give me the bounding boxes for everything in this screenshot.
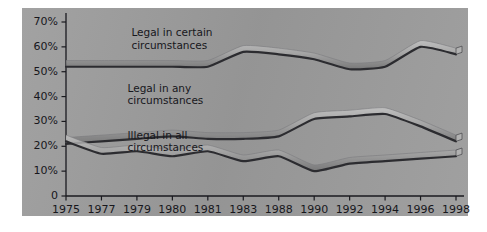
y-tick-label: 70% — [34, 16, 58, 27]
x-tick-label: 1992 — [330, 204, 370, 215]
series-ribbon-1 — [66, 108, 462, 144]
x-tick-label: 1977 — [81, 204, 121, 215]
x-tick-label: 1994 — [365, 204, 405, 215]
chart-plot-area — [0, 0, 487, 232]
series-ribbon-0 — [66, 41, 462, 70]
series-label-line1: Illegal in all — [128, 129, 204, 142]
x-tick-label: 1979 — [117, 204, 157, 215]
series-label-2: Illegal in allcircumstances — [128, 129, 204, 154]
x-tick-label: 1990 — [294, 204, 334, 215]
series-label-line1: Legal in any — [128, 82, 204, 95]
x-tick-label: 1980 — [152, 204, 192, 215]
y-tick-label: 40% — [34, 91, 58, 102]
x-tick-label: 1998 — [436, 204, 476, 215]
chart-axes — [62, 13, 465, 201]
y-tick-label: 0 — [51, 190, 58, 201]
y-tick-label: 50% — [34, 66, 58, 77]
y-tick-label: 10% — [34, 165, 58, 176]
chart-figure: 010%20%30%40%50%60%70% 19751977197919801… — [0, 0, 487, 232]
series-label-1: Legal in anycircumstances — [128, 82, 204, 107]
y-tick-label: 60% — [34, 41, 58, 52]
series-label-line2: circumstances — [128, 94, 204, 107]
x-tick-label: 1975 — [46, 204, 86, 215]
series-label-0: Legal in certaincircumstances — [131, 26, 212, 51]
x-tick-label: 1983 — [223, 204, 263, 215]
y-tick-label: 30% — [34, 115, 58, 126]
y-tick-label: 20% — [34, 140, 58, 151]
chart-series-group — [66, 41, 462, 172]
x-tick-label: 1988 — [259, 204, 299, 215]
series-label-line2: circumstances — [128, 141, 204, 154]
x-tick-label: 1996 — [401, 204, 441, 215]
x-tick-label: 1981 — [188, 204, 228, 215]
series-label-line2: circumstances — [131, 39, 212, 52]
series-label-line1: Legal in certain — [131, 26, 212, 39]
